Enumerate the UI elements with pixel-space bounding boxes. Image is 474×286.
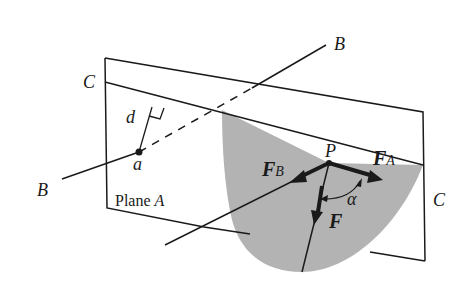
line-b-lower — [62, 152, 139, 179]
plane-a-text: Plane — [115, 192, 155, 209]
force-a-sub: A — [385, 153, 395, 168]
label-b-top: B — [334, 34, 345, 54]
distance-d-line — [139, 107, 152, 152]
force-b-sub: B — [275, 164, 284, 179]
label-force: F — [328, 210, 343, 232]
label-c-right: C — [433, 190, 446, 210]
label-a: a — [133, 154, 142, 174]
label-plane-a: Plane A — [115, 192, 165, 209]
label-c-left: C — [83, 72, 96, 92]
force-a-main: F — [372, 147, 387, 169]
force-b-main: F — [261, 158, 276, 180]
plane-a-letter: A — [154, 192, 165, 209]
diagram-canvas: B B C C d a P Plane A FB FA F α — [0, 0, 474, 286]
label-b-bottom: B — [37, 180, 48, 200]
label-p: P — [324, 141, 336, 161]
label-alpha: α — [347, 189, 357, 209]
line-b-upper — [252, 45, 326, 88]
diagram-svg: B B C C d a P Plane A FB FA F α — [0, 0, 474, 286]
label-force-a: FA — [372, 147, 395, 169]
plane-a-bottom-edge-right — [370, 252, 425, 261]
label-d: d — [126, 107, 136, 127]
